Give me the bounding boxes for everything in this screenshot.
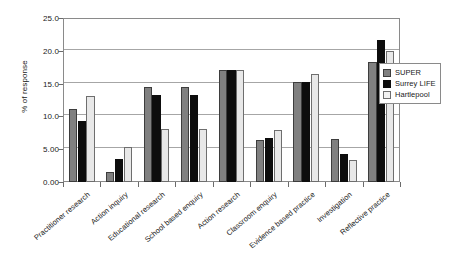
- y-tick-label: 0.00: [19, 178, 59, 187]
- legend-swatch-icon: [383, 80, 391, 88]
- bar: [161, 129, 169, 182]
- bar: [181, 87, 189, 182]
- bar-group: [213, 18, 250, 182]
- bar-group: [325, 18, 362, 182]
- x-tick-mark: [175, 182, 176, 187]
- bar-group: [175, 18, 212, 182]
- x-tick-mark: [63, 182, 64, 187]
- y-tick-label: 10.0: [19, 112, 59, 121]
- bar: [219, 70, 227, 182]
- bar: [256, 140, 264, 182]
- legend-swatch-icon: [383, 69, 391, 77]
- bar: [340, 154, 348, 182]
- bar: [236, 70, 244, 182]
- bars-layer: [63, 18, 400, 182]
- bar: [78, 121, 86, 182]
- x-tick-mark: [100, 182, 101, 187]
- bar: [377, 40, 385, 182]
- bar: [124, 147, 132, 182]
- bar-group: [138, 18, 175, 182]
- x-tick-mark: [288, 182, 289, 187]
- legend-label: Hartlepool: [395, 90, 430, 99]
- y-tick-label: 20.0: [19, 46, 59, 55]
- bar: [152, 95, 160, 182]
- x-tick-label: Practitioner research: [0, 190, 92, 256]
- x-tick-mark: [325, 182, 326, 187]
- y-tick-label: 5.00: [19, 145, 59, 154]
- bar: [265, 138, 273, 182]
- bar-group: [100, 18, 137, 182]
- x-tick-mark: [213, 182, 214, 187]
- bar: [115, 159, 123, 182]
- y-tick-label: 15.0: [19, 79, 59, 88]
- legend-item: Surrey LIFE: [383, 78, 436, 89]
- bar: [302, 82, 310, 182]
- x-tick-mark: [250, 182, 251, 187]
- legend-item: Hartlepool: [383, 89, 436, 100]
- x-tick-mark: [363, 182, 364, 187]
- bar: [199, 129, 207, 182]
- bar: [227, 70, 235, 182]
- bar: [331, 139, 339, 182]
- x-tick-mark: [138, 182, 139, 187]
- bar: [190, 95, 198, 182]
- x-tick-mark: [400, 182, 401, 187]
- legend-swatch-icon: [383, 91, 391, 99]
- legend-label: Surrey LIFE: [395, 79, 436, 88]
- bar: [368, 62, 376, 182]
- legend: SUPERSurrey LIFEHartlepool: [379, 63, 441, 104]
- legend-item: SUPER: [383, 67, 436, 78]
- bar: [69, 109, 77, 182]
- bar-group: [288, 18, 325, 182]
- bar: [106, 172, 114, 182]
- bar: [144, 87, 152, 182]
- bar: [311, 74, 319, 182]
- bar: [274, 130, 282, 182]
- bar-chart: % of response 0.005.0010.015.020.025.0 P…: [0, 0, 451, 256]
- bar-group: [63, 18, 100, 182]
- bar: [293, 82, 301, 182]
- bar-group: [250, 18, 287, 182]
- bar: [86, 96, 94, 182]
- legend-label: SUPER: [395, 68, 421, 77]
- y-tick-label: 25.0: [19, 14, 59, 23]
- bar: [349, 160, 357, 182]
